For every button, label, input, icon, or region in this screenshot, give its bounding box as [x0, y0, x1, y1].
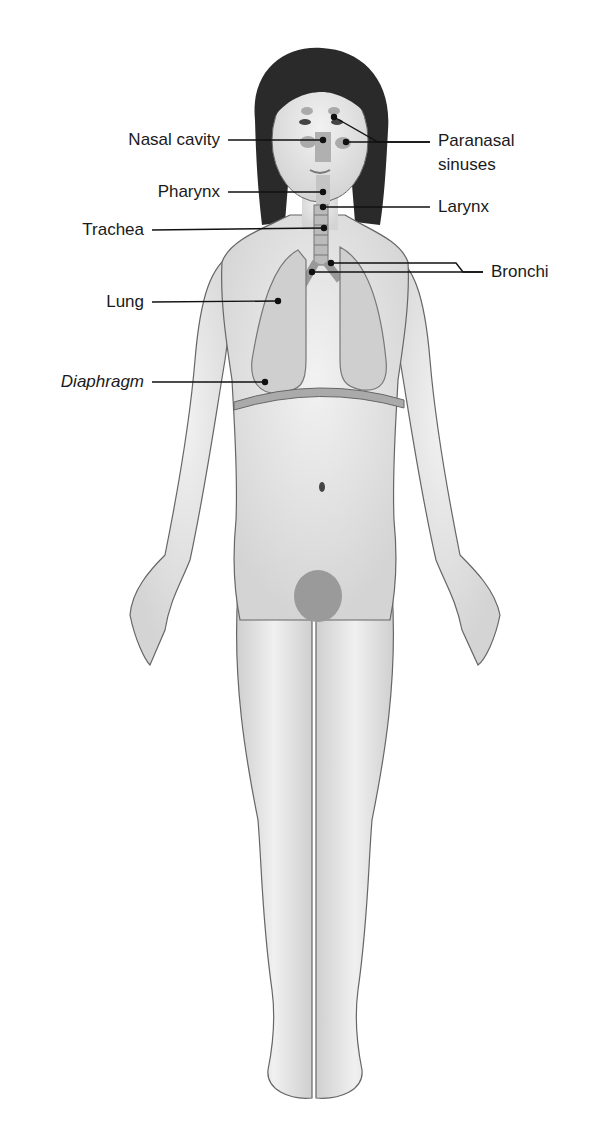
- label-nasal-cavity: Nasal cavity: [100, 130, 220, 150]
- torso: [222, 215, 409, 622]
- label-bronchi: Bronchi: [491, 262, 549, 282]
- label-lung: Lung: [30, 292, 144, 312]
- label-paranasal-sinuses-2: sinuses: [438, 155, 496, 175]
- label-diaphragm: Diaphragm: [30, 372, 144, 392]
- legs: [237, 590, 394, 1098]
- anatomy-figure: [0, 0, 613, 1134]
- pubic-area: [294, 570, 342, 622]
- navel: [319, 482, 325, 492]
- label-paranasal-sinuses-1: Paranasal: [438, 131, 515, 151]
- label-larynx: Larynx: [438, 197, 489, 217]
- label-pharynx: Pharynx: [100, 182, 220, 202]
- label-trachea: Trachea: [30, 220, 144, 240]
